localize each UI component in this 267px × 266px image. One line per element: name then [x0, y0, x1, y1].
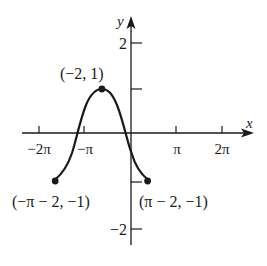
peak-annotation: (−2, 1) — [60, 65, 104, 83]
x-tick-label: −π — [77, 141, 93, 157]
left-endpoint — [52, 178, 59, 185]
function-graph: x y −2π −π π 2π 2 −2 (−2, 1) (−π − 2, −1… — [0, 0, 267, 266]
right-endpoint — [144, 178, 151, 185]
peak-point — [99, 86, 106, 93]
x-axis: x — [22, 115, 254, 138]
y-tick-label: 2 — [119, 35, 127, 52]
y-axis-label: y — [115, 13, 124, 29]
left-endpoint-annotation: (−π − 2, −1) — [12, 193, 90, 211]
y-tick-label: −2 — [110, 221, 127, 238]
right-endpoint-annotation: (π − 2, −1) — [139, 193, 208, 211]
x-tick-label: π — [173, 141, 181, 157]
x-tick-label: −2π — [27, 141, 51, 157]
x-tick-label: 2π — [214, 141, 230, 157]
cosine-curve — [55, 89, 147, 180]
x-axis-label: x — [245, 115, 253, 131]
